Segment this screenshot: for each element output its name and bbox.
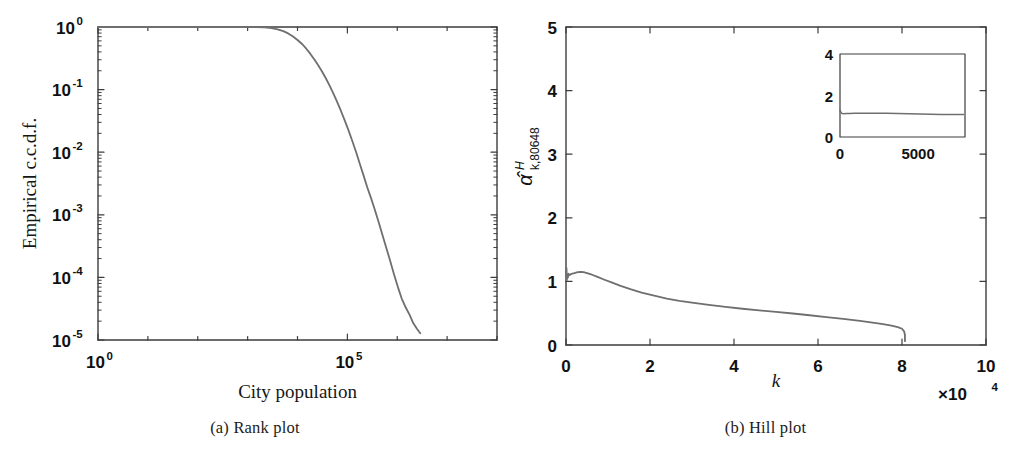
y-axis-label-a: Empirical c.c.d.f.	[19, 118, 40, 249]
y-axis-label-superscript: H	[513, 161, 527, 170]
y-tick-label: 2	[548, 209, 557, 228]
x-tick-label: 8	[897, 357, 906, 376]
panel-rank-plot: 10010-110-210-310-410-5100105City popula…	[0, 0, 510, 467]
inset-frame	[840, 54, 965, 137]
hill-plot-group: 0246810012345×104kα̂Hk,8064802405000	[513, 19, 999, 405]
x-axis-exponent-b: ×104	[938, 381, 999, 404]
inset-y-tick-label: 0	[825, 129, 833, 146]
x-tick-label-exponent: 0	[107, 350, 113, 362]
plot-frame-a	[98, 27, 497, 340]
x-tick-label-mantissa: 10	[86, 353, 105, 372]
tick-labels-b: 0246810012345	[548, 19, 996, 377]
x-axis-label-a: City population	[238, 381, 357, 402]
rank-plot-canvas: 10010-110-210-310-410-5100105City popula…	[0, 0, 510, 467]
inset-x-tick-label: 5000	[901, 145, 934, 162]
x-tick-labels-a: 100105	[86, 350, 363, 373]
y-tick-label-mantissa: 10	[52, 144, 71, 163]
inset-x-tick-label: 0	[836, 145, 844, 162]
hill-curve	[566, 268, 905, 341]
inset-tick-labels: 02405000	[825, 46, 935, 162]
y-tick-label-mantissa: 10	[52, 332, 71, 351]
y-tick-label-mantissa: 10	[52, 81, 71, 100]
y-tick-label: 3	[548, 146, 557, 165]
x-tick-marks-a	[98, 27, 497, 340]
hill-plot-canvas: 0246810012345×104kα̂Hk,8064802405000	[510, 0, 1021, 467]
y-tick-label-mantissa: 10	[56, 19, 75, 38]
y-tick-label-exponent: -2	[73, 140, 83, 152]
x-exponent-power: 4	[992, 381, 999, 393]
y-tick-label-exponent: 0	[77, 15, 83, 27]
y-tick-label-exponent: -1	[73, 77, 84, 89]
y-tick-label-exponent: -3	[73, 202, 83, 214]
y-tick-marks-a	[98, 27, 497, 340]
y-tick-label-exponent: -4	[73, 265, 84, 277]
y-tick-label: 5	[548, 19, 557, 38]
x-tick-label: 4	[729, 357, 739, 376]
ccdf-curve	[98, 27, 420, 333]
y-tick-labels-a: 10010-110-210-310-410-5	[52, 15, 83, 351]
inset-hill-curve	[840, 110, 963, 115]
panel-a-caption: (a) Rank plot	[0, 418, 510, 438]
inset-group: 02405000	[825, 46, 965, 162]
x-tick-label: 6	[813, 357, 822, 376]
figure-root: 10010-110-210-310-410-5100105City popula…	[0, 0, 1021, 467]
x-exponent-mantissa: ×10	[938, 385, 967, 404]
y-axis-label-b: α̂Hk,80648	[513, 127, 542, 186]
x-axis-label-b: k	[772, 370, 781, 391]
inset-y-tick-label: 2	[825, 88, 833, 105]
y-tick-label: 1	[548, 273, 557, 292]
x-tick-label-exponent: 5	[356, 350, 363, 362]
y-axis-label-subscript: k,80648	[528, 127, 542, 170]
x-tick-label: 0	[561, 357, 570, 376]
inset-y-tick-label: 4	[825, 46, 834, 63]
y-tick-label-mantissa: 10	[52, 206, 71, 225]
panel-hill-plot: 0246810012345×104kα̂Hk,8064802405000 (b)…	[510, 0, 1021, 467]
y-axis-label-base: α̂	[514, 170, 536, 185]
x-tick-label-mantissa: 10	[335, 353, 354, 372]
rank-plot-group: 10010-110-210-310-410-5100105City popula…	[19, 15, 497, 403]
x-tick-label: 2	[645, 357, 654, 376]
tick-marks-b	[566, 27, 986, 345]
y-tick-label: 4	[548, 82, 558, 101]
y-tick-label-mantissa: 10	[52, 269, 71, 288]
y-tick-label-exponent: -5	[73, 328, 84, 340]
panel-b-caption: (b) Hill plot	[510, 418, 1021, 438]
y-tick-label: 0	[548, 337, 557, 356]
x-tick-label: 10	[977, 357, 996, 376]
plot-frame-b	[566, 27, 986, 345]
